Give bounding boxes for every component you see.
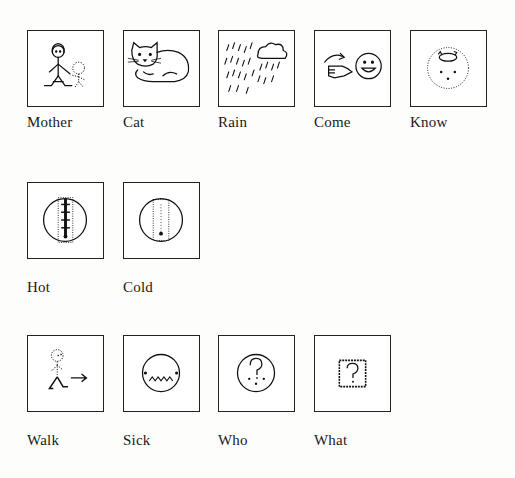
question-box-icon: [315, 336, 390, 411]
symbol-tile-mother: [27, 30, 104, 107]
thermometer-hot-icon: [28, 183, 103, 258]
thinking-head-icon: [411, 31, 486, 106]
symbol-tile-know: [410, 30, 487, 107]
beckoning-hand-icon: [315, 31, 390, 106]
symbol-label: What: [314, 432, 347, 449]
symbol-label: Cold: [123, 279, 153, 296]
symbol-tile-cold: [123, 182, 200, 259]
symbol-label: Know: [410, 114, 447, 131]
symbol-label: Hot: [27, 279, 50, 296]
rain-cloud-icon: [219, 31, 294, 106]
symbol-label: Mother: [27, 114, 72, 131]
cat-icon: [124, 31, 199, 106]
sick-face-icon: [124, 336, 199, 411]
walking-person-icon: [28, 336, 103, 411]
mother-and-child-icon: [28, 31, 103, 106]
symbol-label: Rain: [218, 114, 247, 131]
thermometer-cold-icon: [124, 183, 199, 258]
symbol-tile-who: [218, 335, 295, 412]
symbol-label: Come: [314, 114, 351, 131]
symbol-label: Sick: [123, 432, 150, 449]
symbol-tile-come: [314, 30, 391, 107]
symbol-tile-rain: [218, 30, 295, 107]
question-face-icon: [219, 336, 294, 411]
symbol-label: Walk: [27, 432, 59, 449]
symbol-tile-sick: [123, 335, 200, 412]
symbol-tile-cat: [123, 30, 200, 107]
symbol-label: Cat: [123, 114, 144, 131]
symbol-label: Who: [218, 432, 248, 449]
symbol-tile-walk: [27, 335, 104, 412]
symbol-tile-what: [314, 335, 391, 412]
symbol-tile-hot: [27, 182, 104, 259]
